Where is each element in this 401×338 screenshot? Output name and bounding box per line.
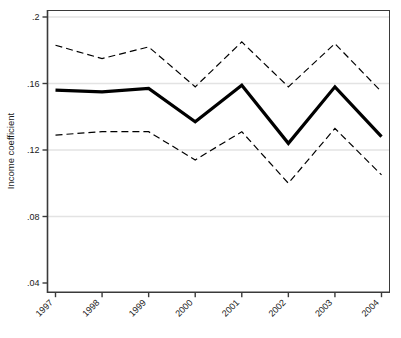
y-tick-label: .16 (27, 79, 40, 89)
y-tick-label: .04 (27, 278, 40, 288)
chart-figure: .2.16.12.08.04 1997199819992000200120022… (0, 0, 401, 338)
income-coefficient-line-chart: .2.16.12.08.04 1997199819992000200120022… (0, 0, 401, 338)
y-tick-label: .12 (27, 145, 40, 155)
y-tick-label: .2 (32, 12, 40, 22)
y-axis-title: Income coefficient (5, 112, 16, 189)
y-tick-label: .08 (27, 212, 40, 222)
chart-background (0, 0, 401, 338)
